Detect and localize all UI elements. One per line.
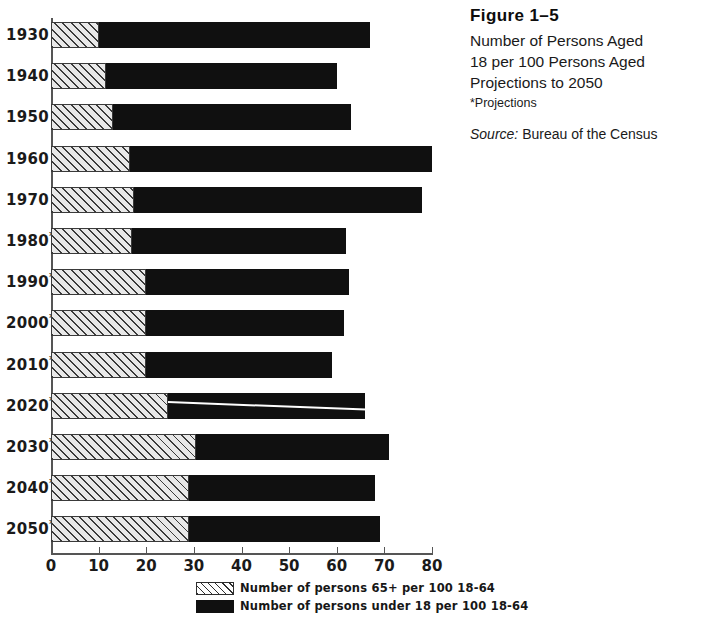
bar-row — [51, 475, 375, 501]
caption-line-2: 18 per 100 Persons Aged — [470, 51, 698, 72]
bar-segment-under18 — [168, 393, 366, 419]
y-axis-label: 2050* — [6, 520, 8, 538]
x-axis-tick-label: 50 — [279, 557, 300, 575]
bar-segment-65plus — [51, 310, 146, 336]
bar-row — [51, 310, 344, 336]
y-axis-label: 1960 — [6, 150, 8, 168]
bar-segment-under18 — [99, 22, 370, 48]
y-axis-label: 2000* — [6, 314, 8, 332]
x-axis-tick — [337, 547, 338, 554]
figure-caption: Figure 1–5 Number of Persons Aged 18 per… — [470, 6, 698, 144]
bar-row — [51, 269, 349, 295]
x-axis-tick — [242, 547, 243, 554]
legend-label-65plus: Number of persons 65+ per 100 18-64 — [240, 581, 495, 595]
y-axis-label: 2020* — [6, 397, 8, 415]
legend-item-under18: Number of persons under 18 per 100 18-64 — [196, 598, 496, 614]
x-axis-tick-label: 70 — [374, 557, 395, 575]
bar-segment-under18 — [113, 104, 351, 130]
chart-legend: Number of persons 65+ per 100 18-64 Numb… — [196, 580, 496, 616]
x-axis-tick-label: 30 — [183, 557, 204, 575]
y-axis-label: 1940 — [6, 67, 8, 85]
caption-projection-note: *Projections — [470, 94, 698, 112]
caption-line-3: Projections to 2050 — [470, 72, 698, 93]
legend-label-under18: Number of persons under 18 per 100 18-64 — [240, 599, 528, 613]
bar-segment-65plus — [51, 475, 189, 501]
bar-segment-under18 — [146, 269, 348, 295]
bar-segment-65plus — [51, 104, 113, 130]
y-axis-label: 1980* — [6, 232, 8, 250]
figure-container: 193019401950196019701980*1990*2000*2010*… — [0, 0, 704, 619]
bar-row — [51, 22, 370, 48]
x-axis-tick — [99, 547, 100, 554]
source-label: Source: — [470, 126, 518, 142]
caption-line-1: Number of Persons Aged — [470, 30, 698, 51]
bar-segment-under18 — [189, 516, 380, 542]
x-axis-tick-label: 80 — [422, 557, 443, 575]
bar-segment-under18 — [146, 352, 332, 378]
bar-segment-under18 — [130, 146, 432, 172]
bar-segment-65plus — [51, 187, 134, 213]
bar-segment-65plus — [51, 352, 146, 378]
y-axis-label: 2040* — [6, 479, 8, 497]
legend-item-65plus: Number of persons 65+ per 100 18-64 — [196, 580, 496, 596]
caption-source: Source: Bureau of the Census — [470, 124, 698, 144]
y-axis-label: 1950 — [6, 108, 8, 126]
x-axis-tick — [51, 547, 52, 554]
y-axis-label: 1970 — [6, 191, 8, 209]
x-axis-tick — [384, 547, 385, 554]
x-axis-tick — [194, 547, 195, 554]
bar-row — [51, 352, 332, 378]
bar-segment-under18 — [146, 310, 344, 336]
bar-segment-65plus — [51, 269, 146, 295]
bar-row — [51, 146, 432, 172]
bar-segment-under18 — [132, 228, 346, 254]
x-axis-tick-label: 60 — [326, 557, 347, 575]
x-axis-tick — [432, 547, 433, 554]
x-axis-tick-label: 0 — [46, 557, 56, 575]
x-axis-tick — [146, 547, 147, 554]
y-axis-label: 2010* — [6, 356, 8, 374]
bar-segment-under18 — [106, 63, 337, 89]
bar-segment-65plus — [51, 22, 99, 48]
y-axis-label: 1990* — [6, 273, 8, 291]
bar-row — [51, 63, 337, 89]
bar-row — [51, 104, 351, 130]
bar-segment-65plus — [51, 146, 130, 172]
x-axis-tick — [289, 547, 290, 554]
bar-segment-65plus — [51, 434, 196, 460]
legend-swatch-solid — [196, 600, 234, 613]
bar-segment-under18 — [189, 475, 375, 501]
figure-number: Figure 1–5 — [470, 6, 698, 26]
bar-row — [51, 393, 365, 419]
bar-segment-65plus — [51, 228, 132, 254]
x-axis-tick-label: 20 — [136, 557, 157, 575]
bar-segment-65plus — [51, 63, 106, 89]
y-axis-label: 2030* — [6, 438, 8, 456]
bar-row — [51, 434, 389, 460]
bar-segment-65plus — [51, 516, 189, 542]
bar-row — [51, 187, 422, 213]
chart-plot-area: 193019401950196019701980*1990*2000*2010*… — [0, 0, 470, 619]
legend-swatch-hatched — [196, 582, 234, 595]
bar-row — [51, 516, 380, 542]
bar-segment-65plus — [51, 393, 168, 419]
bar-segment-under18 — [196, 434, 389, 460]
source-value: Bureau of the Census — [518, 126, 657, 142]
bar-segment-under18 — [134, 187, 422, 213]
x-axis-tick-label: 10 — [88, 557, 109, 575]
bar-row — [51, 228, 346, 254]
y-axis-label: 1930 — [6, 26, 8, 44]
x-axis-tick-label: 40 — [231, 557, 252, 575]
